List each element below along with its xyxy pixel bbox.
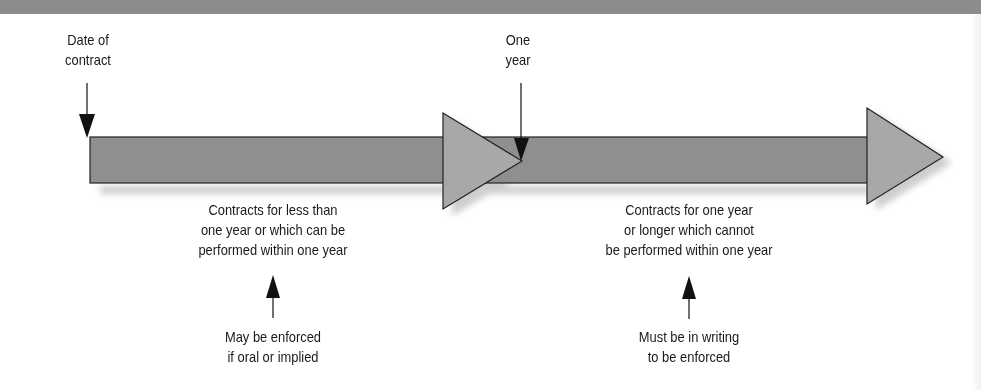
rule-line: to be enforced [612, 347, 767, 367]
rule-line: May be enforced [196, 327, 351, 347]
rule-line: if oral or implied [196, 347, 351, 367]
segment-rule-under-one-year: May be enforced if oral or implied [196, 327, 351, 367]
timeline-diagram [0, 0, 981, 390]
rule-line: Must be in writing [612, 327, 767, 347]
segment-rule-one-year-or-longer: Must be in writing to be enforced [612, 327, 767, 367]
label-line: Date of [47, 30, 130, 50]
label-line: year [492, 50, 544, 70]
up-arrow-icon-right [682, 276, 696, 319]
date-of-contract-label: Date of contract [47, 30, 130, 70]
label-line: contract [47, 50, 130, 70]
one-year-label: One year [492, 30, 544, 70]
description-line: Contracts for one year [582, 200, 797, 220]
description-line: Contracts for less than [170, 200, 376, 220]
description-line: be performed within one year [582, 240, 797, 260]
segment-description-under-one-year: Contracts for less than one year or whic… [170, 200, 376, 260]
description-line: performed within one year [170, 240, 376, 260]
segment-description-one-year-or-longer: Contracts for one year or longer which c… [582, 200, 797, 260]
date-of-contract-pointer-icon [79, 83, 95, 138]
description-line: one year or which can be [170, 220, 376, 240]
description-line: or longer which cannot [582, 220, 797, 240]
label-line: One [492, 30, 544, 50]
up-arrow-icon-left [266, 275, 280, 318]
